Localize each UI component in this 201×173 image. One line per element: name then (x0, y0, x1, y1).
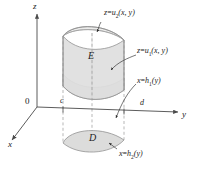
y-axis-label: y (182, 110, 186, 119)
region-label-E: E (88, 51, 94, 61)
x-axis-label: x (8, 140, 12, 149)
region-label-D: D (89, 133, 96, 143)
axis-ticks (63, 107, 124, 115)
surface-label-bottom: z=u1(x, y) (137, 47, 168, 57)
boundary-label-h1: x=h1(y) (137, 77, 161, 87)
boundary-label-h2: x=h2(y) (119, 150, 143, 160)
y-axis (37, 107, 178, 112)
h2-args: (y) (134, 149, 143, 158)
surface-label-top: z=u2(x, y) (104, 9, 135, 19)
diagram-svg (0, 0, 201, 173)
tick-label-c: c (60, 97, 64, 105)
top-args: (x, y) (118, 8, 134, 17)
bottom-args: (x, y) (151, 46, 167, 55)
x-axis (12, 107, 37, 140)
tick-label-d: d (140, 99, 144, 107)
figure-canvas: z y x 0 c d E D z=u2(x, y) z=u1(x, y) x=… (0, 0, 201, 173)
solid-top-surface (63, 27, 124, 40)
z-axis-label: z (33, 2, 37, 11)
h1-args: (y) (152, 76, 161, 85)
solid-body (63, 36, 124, 99)
origin-label: 0 (25, 97, 30, 106)
